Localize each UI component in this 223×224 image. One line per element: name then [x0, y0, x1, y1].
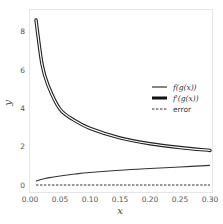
x-tick-label: 0.20	[142, 195, 159, 204]
x-axis-label: x	[117, 205, 123, 216]
x-tick-label: 0.05	[52, 195, 69, 204]
x-tick-label: 0.10	[82, 195, 99, 204]
x-tick-label: 0.25	[172, 195, 189, 204]
y-axis-label: y	[2, 100, 13, 107]
x-tick-labels: 0.000.050.100.150.200.250.30	[22, 195, 219, 204]
x-tick-label: 0.15	[112, 195, 129, 204]
legend-label-f: f(g(x))	[172, 83, 197, 92]
line-chart: 02468 0.000.050.100.150.200.250.30 x y f…	[0, 0, 223, 224]
x-tick-label: 0.30	[202, 195, 219, 204]
y-tick-labels: 02468	[20, 27, 25, 190]
x-tick-label: 0.00	[22, 195, 39, 204]
legend-label-error: error	[173, 105, 192, 114]
y-tick-label: 4	[20, 104, 25, 113]
y-tick-label: 0	[20, 181, 25, 190]
y-tick-label: 2	[20, 142, 25, 151]
y-tick-label: 8	[20, 27, 25, 36]
y-tick-label: 6	[20, 66, 25, 75]
legend-label-fprime: f'(g(x))	[172, 94, 199, 103]
